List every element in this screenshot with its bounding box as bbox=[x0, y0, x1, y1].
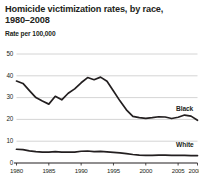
gridlines bbox=[17, 54, 198, 141]
y-tick-label: 10 bbox=[0, 138, 13, 144]
x-tick-label: 2000 bbox=[137, 168, 155, 174]
plot-area: 01020304050 1980198519901995200020052008… bbox=[0, 0, 199, 176]
series-lines bbox=[17, 77, 198, 155]
x-tick-label: 2008 bbox=[186, 168, 199, 174]
x-tick-label: 1980 bbox=[8, 168, 26, 174]
x-tick-label: 1985 bbox=[40, 168, 58, 174]
x-tick-label: 2005 bbox=[169, 168, 187, 174]
x-tick-label: 1990 bbox=[72, 168, 90, 174]
series-label-white: White bbox=[176, 142, 193, 149]
series-label-black: Black bbox=[176, 106, 193, 113]
y-tick-label: 30 bbox=[0, 94, 13, 100]
y-tick-label: 20 bbox=[0, 116, 13, 122]
y-tick-label: 50 bbox=[0, 51, 13, 57]
chart-figure: Homicide victimization rates, by race, 1… bbox=[0, 0, 199, 176]
series-line-white bbox=[17, 149, 198, 155]
y-tick-label: 0 bbox=[0, 160, 13, 166]
y-tick-label: 40 bbox=[0, 73, 13, 79]
x-tick-label: 1995 bbox=[104, 168, 122, 174]
chart-svg bbox=[0, 0, 199, 176]
series-line-black bbox=[17, 77, 198, 120]
